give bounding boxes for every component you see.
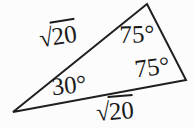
side-label-bottom-sqrt20: √20 <box>95 97 135 125</box>
angle-label-right-75: 75° <box>133 52 171 81</box>
triangle-diagram: 75° 75° 30° √20 √20 <box>0 0 194 128</box>
radicand: 20 <box>108 96 135 125</box>
side-label-upper-left-sqrt20: √20 <box>37 21 78 52</box>
angle-label-left-30: 30° <box>50 71 87 100</box>
angle-label-top-75: 75° <box>119 21 155 47</box>
radicand: 20 <box>50 20 79 51</box>
